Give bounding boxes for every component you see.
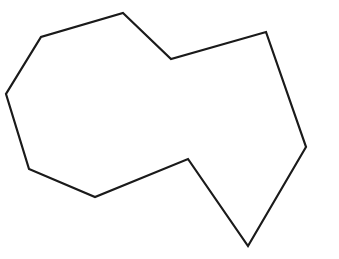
- polygon-figure: [0, 0, 339, 259]
- drawing-canvas: [0, 0, 339, 259]
- canvas-background: [0, 0, 339, 259]
